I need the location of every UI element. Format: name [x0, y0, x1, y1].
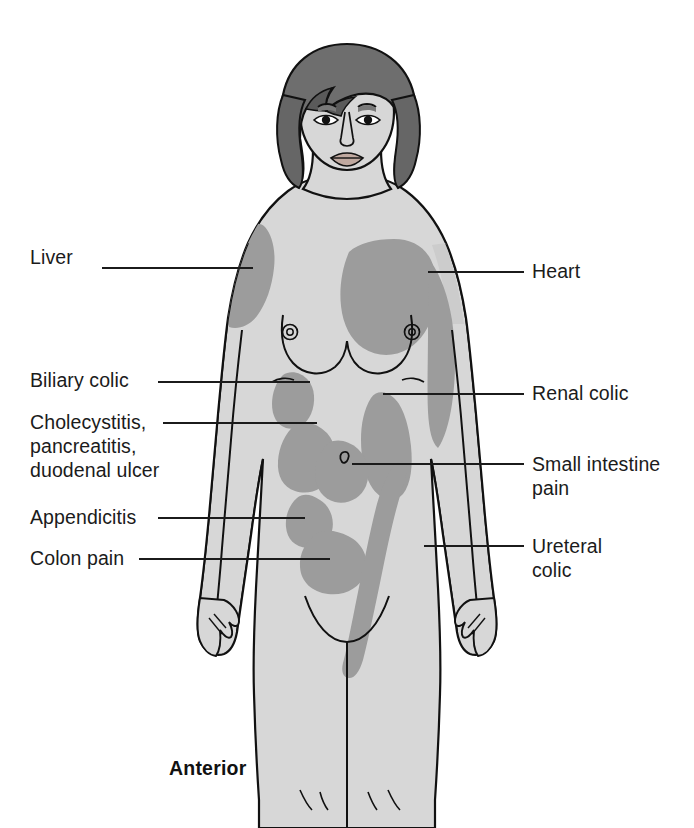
- label-colon-pain: Colon pain: [30, 546, 124, 570]
- view-caption: Anterior: [169, 757, 246, 780]
- label-ureteral-colic: Ureteral colic: [532, 534, 602, 582]
- label-biliary-colic: Biliary colic: [30, 368, 129, 392]
- label-renal-colic: Renal colic: [532, 381, 628, 405]
- label-cholecystitis: Cholecystitis, pancreatitis, duodenal ul…: [30, 410, 159, 482]
- label-liver: Liver: [30, 245, 73, 269]
- label-small-intestine: Small intestine pain: [532, 452, 660, 500]
- label-heart: Heart: [532, 259, 580, 283]
- label-appendicitis: Appendicitis: [30, 505, 136, 529]
- referred-pain-diagram: Liver Biliary colic Cholecystitis, pancr…: [0, 0, 694, 828]
